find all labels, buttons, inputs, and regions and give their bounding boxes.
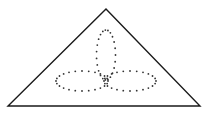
triangle-outline bbox=[8, 9, 200, 106]
dot bbox=[81, 90, 83, 92]
dot bbox=[96, 58, 98, 60]
dot bbox=[129, 70, 131, 72]
dot bbox=[112, 36, 114, 38]
dot bbox=[68, 89, 70, 91]
dot bbox=[68, 71, 70, 73]
dot bbox=[136, 90, 138, 92]
dot bbox=[155, 80, 157, 82]
diagram-canvas bbox=[0, 0, 204, 122]
dot bbox=[154, 78, 156, 80]
dot bbox=[107, 30, 109, 32]
dot bbox=[99, 73, 101, 75]
dot bbox=[106, 78, 108, 80]
dot bbox=[114, 47, 116, 49]
dot bbox=[111, 73, 113, 75]
dot bbox=[152, 85, 154, 87]
dot bbox=[114, 61, 116, 63]
dot bbox=[94, 89, 96, 91]
dot bbox=[103, 80, 105, 82]
dot bbox=[106, 83, 108, 85]
petal-top bbox=[96, 29, 117, 81]
dot bbox=[98, 38, 100, 40]
dot bbox=[115, 54, 117, 56]
dot bbox=[142, 89, 144, 91]
dot bbox=[107, 80, 109, 82]
dot bbox=[113, 67, 115, 69]
dot bbox=[109, 32, 111, 34]
triangle-trefoil-diagram bbox=[0, 0, 204, 122]
dot bbox=[102, 78, 104, 80]
dot bbox=[99, 87, 101, 89]
dot bbox=[104, 29, 106, 31]
dotted-trefoil bbox=[55, 29, 157, 92]
dot bbox=[122, 90, 124, 92]
dot bbox=[107, 85, 109, 87]
dot bbox=[100, 34, 102, 36]
dot bbox=[104, 83, 106, 85]
dot bbox=[147, 87, 149, 89]
dot bbox=[55, 80, 57, 82]
dot bbox=[154, 83, 156, 85]
dot bbox=[81, 70, 83, 72]
dot bbox=[104, 75, 106, 77]
dot bbox=[107, 75, 109, 77]
dot bbox=[63, 87, 65, 89]
petal-right bbox=[103, 70, 157, 92]
dot bbox=[104, 85, 106, 87]
dot bbox=[116, 89, 118, 91]
dot bbox=[129, 90, 131, 92]
petal-left bbox=[55, 70, 109, 92]
dot bbox=[96, 64, 98, 66]
dot bbox=[96, 44, 98, 46]
dot bbox=[116, 71, 118, 73]
dot bbox=[102, 31, 104, 33]
dot bbox=[142, 71, 144, 73]
dot bbox=[152, 75, 154, 77]
dot bbox=[147, 73, 149, 75]
dot bbox=[74, 90, 76, 92]
dot bbox=[56, 83, 58, 85]
dot bbox=[63, 73, 65, 75]
dot bbox=[74, 70, 76, 72]
dot bbox=[88, 90, 90, 92]
dot bbox=[109, 76, 111, 78]
dot bbox=[113, 41, 115, 43]
dot bbox=[59, 75, 61, 77]
dot bbox=[98, 70, 100, 72]
dot bbox=[111, 87, 113, 89]
dot bbox=[88, 70, 90, 72]
dot bbox=[104, 78, 106, 80]
dot bbox=[122, 70, 124, 72]
dot bbox=[59, 85, 61, 87]
dot bbox=[94, 71, 96, 73]
dot bbox=[96, 51, 98, 53]
dot bbox=[56, 78, 58, 80]
dot bbox=[136, 70, 138, 72]
